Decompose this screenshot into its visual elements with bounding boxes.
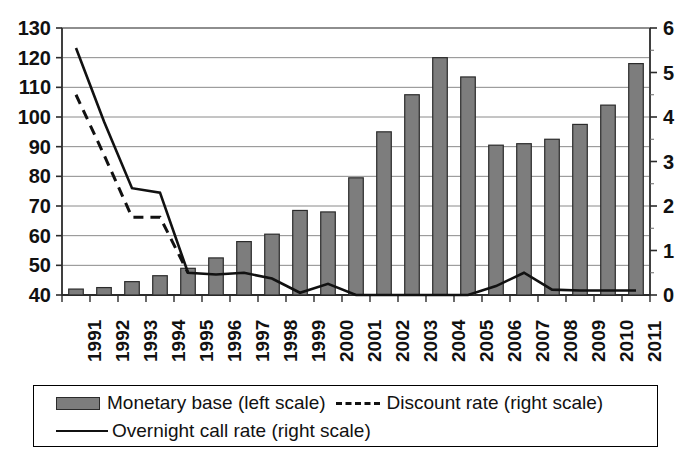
legend-label-monetary-base: Monetary base (left scale) (107, 392, 326, 414)
x-axis-tick-label-2009: 2009 (589, 320, 608, 362)
y-axis-left-tick-label: 80 (0, 166, 51, 186)
legend-label-discount-rate: Discount rate (right scale) (387, 392, 603, 414)
bar-2001 (349, 178, 364, 295)
x-axis-tick-label-2000: 2000 (337, 320, 356, 362)
y-axis-left-tick-label: 110 (0, 77, 51, 97)
y-axis-left-tick-label: 130 (0, 18, 51, 38)
bar-2005 (461, 77, 476, 295)
x-axis-tick-label-2002: 2002 (393, 320, 412, 362)
chart-figure: 405060708090100110120130 0123456 1991199… (0, 0, 688, 465)
y-axis-left-tick-label: 50 (0, 255, 51, 275)
x-axis-tick-label-2001: 2001 (365, 320, 384, 362)
y-axis-right-tick-label: 0 (663, 285, 674, 305)
y-axis-left-tick-label: 120 (0, 48, 51, 68)
bar-1998 (265, 234, 280, 295)
bar-1997 (237, 242, 252, 295)
bar-2004 (433, 58, 448, 295)
x-axis-tick-label-1992: 1992 (113, 320, 132, 362)
x-axis-tick-label-1994: 1994 (169, 320, 188, 362)
bar-2002 (377, 132, 392, 295)
legend-row-1: Monetary base (left scale) Discount rate… (56, 389, 657, 417)
bar-2008 (545, 139, 560, 295)
y-axis-right-tick-label: 5 (663, 63, 674, 83)
x-axis-tick-label-2007: 2007 (533, 320, 552, 362)
legend-row-2: Overnight call rate (right scale) (56, 417, 657, 445)
bar-1993 (125, 282, 140, 295)
bar-2003 (405, 95, 420, 295)
bar-1991 (69, 289, 84, 295)
bar-2009 (573, 124, 588, 295)
bar-1992 (97, 288, 112, 295)
y-axis-right-tick-label: 6 (663, 18, 674, 38)
x-axis-tick-label-1999: 1999 (309, 320, 328, 362)
x-axis-tick-label-1995: 1995 (197, 320, 216, 362)
x-axis-tick-label-2008: 2008 (561, 320, 580, 362)
x-axis-tick-label-1996: 1996 (225, 320, 244, 362)
y-axis-left-tick-label: 70 (0, 196, 51, 216)
y-axis-right-tick-label: 2 (663, 196, 674, 216)
y-axis-right-tick-label: 1 (663, 241, 674, 261)
bar-2006 (489, 145, 504, 295)
x-axis-tick-label-2006: 2006 (505, 320, 524, 362)
x-axis-tick-label-2004: 2004 (449, 320, 468, 362)
x-axis-tick-label-1998: 1998 (281, 320, 300, 362)
chart-legend: Monetary base (left scale) Discount rate… (33, 385, 658, 447)
legend-dashed-line-swatch-icon (336, 402, 380, 405)
bar-1996 (209, 258, 224, 295)
x-axis-tick-label-2011: 2011 (645, 321, 664, 362)
legend-bar-swatch-icon (56, 397, 100, 410)
bar-2011 (629, 64, 644, 295)
x-axis-tick-label-1993: 1993 (141, 320, 160, 362)
legend-solid-line-swatch-icon (56, 430, 108, 432)
y-axis-left-tick-label: 40 (0, 285, 51, 305)
y-axis-right-tick-label: 4 (663, 107, 674, 127)
x-axis-tick-label-2003: 2003 (421, 320, 440, 362)
bar-1994 (153, 276, 168, 295)
legend-label-overnight-call-rate: Overnight call rate (right scale) (112, 420, 371, 442)
y-axis-left-tick-label: 60 (0, 226, 51, 246)
x-axis-tick-label-1997: 1997 (253, 320, 272, 362)
y-axis-right-tick-label: 3 (663, 152, 674, 172)
y-axis-left-tick-label: 90 (0, 137, 51, 157)
bar-2010 (601, 105, 616, 295)
y-axis-left-tick-label: 100 (0, 107, 51, 127)
bar-1999 (293, 210, 308, 295)
x-axis-tick-label-2010: 2010 (617, 320, 636, 362)
x-axis-tick-label-2005: 2005 (477, 320, 496, 362)
x-axis-tick-label-1991: 1991 (85, 320, 104, 362)
